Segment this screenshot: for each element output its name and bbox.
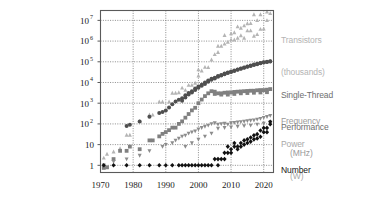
data-point [148,138,152,142]
data-point [229,91,233,95]
y-tick-exponent: 2 [90,118,93,124]
x-tick-label: 2000 [189,180,208,190]
data-point [125,149,129,153]
data-point [180,99,184,103]
data-point [226,93,230,97]
y-tick-label: 10 [80,57,90,67]
data-point [164,108,168,112]
data-point [216,91,220,95]
y-tick-label: 10 [80,99,90,109]
x-tick-label: 1990 [157,180,176,190]
y-tick-label: 1 [90,161,95,171]
data-point [213,92,217,96]
data-point [190,90,194,94]
data-point [223,91,227,95]
data-point [161,132,165,136]
data-point [128,123,132,127]
data-point [245,91,249,95]
data-point [157,134,161,138]
data-point [190,108,194,112]
data-point [183,95,187,99]
legend-cores-line2: of Cores [281,197,312,199]
y-tick-label: 10 [80,16,90,26]
y-tick-label: 10 [80,78,90,88]
data-point [219,93,223,97]
data-point [177,122,181,126]
data-point [268,60,272,64]
data-point [236,90,240,94]
y-tick-exponent: 6 [90,35,93,41]
x-tick-label: 2020 [255,180,274,190]
data-point [167,128,171,132]
data-point [105,165,109,169]
data-point [170,126,174,130]
data-point [249,89,253,93]
data-point [180,119,184,123]
legend-number-of-cores: Number of Cores [281,144,312,198]
data-point [255,88,259,92]
data-point [164,130,168,134]
y-tick-label: 10 [85,140,95,150]
data-point [147,115,151,119]
data-point [200,98,204,102]
x-tick-label: 2010 [222,180,241,190]
legend-transistors-line1: Transistors [281,35,325,46]
x-tick-label: 1970 [92,180,111,190]
legend-cores-line1: Number [281,165,312,176]
y-tick-label: 10 [80,119,90,129]
data-point [167,106,171,110]
data-point [242,89,246,93]
data-point [197,101,201,105]
data-point [138,147,142,151]
data-point [118,149,122,153]
data-point [187,93,191,97]
data-point [210,89,214,93]
data-point [183,116,187,120]
data-point [206,91,210,95]
data-point [259,91,263,95]
data-point [174,126,178,130]
y-tick-exponent: 5 [90,56,93,62]
x-tick-label: 1980 [124,180,143,190]
data-point [265,90,269,94]
data-point [268,87,272,91]
microprocessor-trend-chart: 1101021031041051061071970198019902000201… [0,0,368,198]
data-point [187,112,191,116]
y-tick-exponent: 4 [90,76,93,82]
data-point [262,88,266,92]
data-point [239,91,243,95]
data-point [232,92,236,96]
data-point [193,106,197,110]
data-point [252,91,256,95]
data-point [151,138,155,142]
data-point [128,145,132,149]
y-tick-exponent: 7 [90,14,93,20]
y-tick-label: 10 [80,36,90,46]
y-tick-exponent: 3 [90,97,93,103]
data-point [170,102,174,106]
data-point [138,120,142,124]
data-point [203,94,207,98]
data-point [203,82,207,86]
